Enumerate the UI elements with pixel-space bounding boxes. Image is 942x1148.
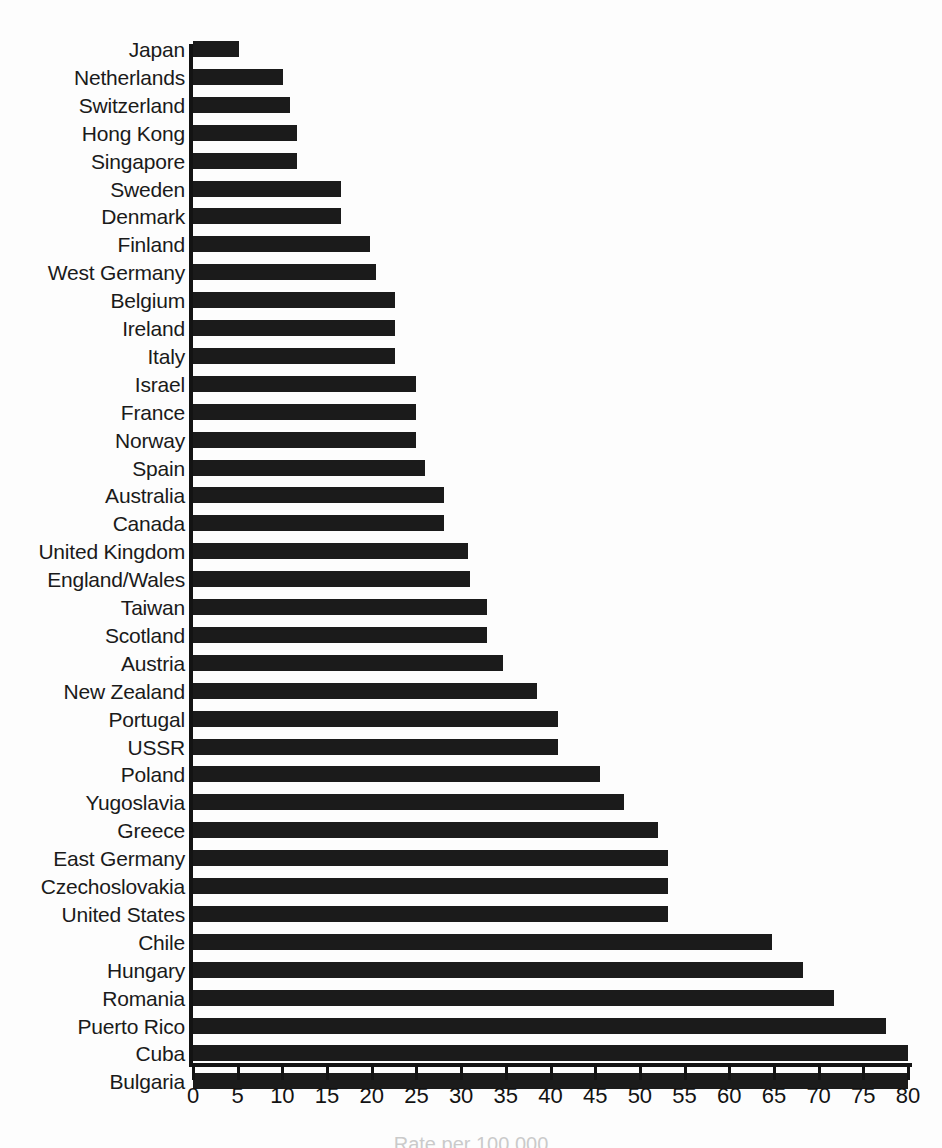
category-label: Romania: [102, 985, 185, 1013]
bar: [193, 739, 558, 755]
x-axis-tick: [684, 1067, 687, 1080]
bar: [193, 348, 395, 364]
bar-row: Denmark: [0, 203, 942, 231]
bar-row: Chile: [0, 929, 942, 957]
bar-row: New Zealand: [0, 678, 942, 706]
category-label: New Zealand: [63, 678, 185, 706]
category-label: Taiwan: [121, 594, 185, 622]
category-label: Italy: [147, 343, 185, 371]
x-axis-tick: [505, 1067, 508, 1080]
category-label: Finland: [118, 231, 185, 259]
bar-row: England/Wales: [0, 566, 942, 594]
bar-row: Norway: [0, 427, 942, 455]
x-axis-tick: [281, 1067, 284, 1080]
bar-row: Japan: [0, 36, 942, 64]
category-label: Switzerland: [79, 92, 185, 120]
x-axis-tick: [192, 1067, 195, 1080]
x-axis-tick: [907, 1067, 910, 1080]
category-label: Chile: [138, 929, 185, 957]
x-axis-tick-label: 80: [878, 1083, 938, 1109]
category-label: Yugoslavia: [85, 789, 185, 817]
bar: [193, 990, 834, 1006]
bar: [193, 627, 487, 643]
bar: [193, 41, 239, 57]
category-label: France: [121, 399, 185, 427]
bar-row: Hong Kong: [0, 120, 942, 148]
bar: [193, 599, 487, 615]
bar: [193, 460, 425, 476]
category-label: Australia: [105, 482, 185, 510]
x-axis-tick: [371, 1067, 374, 1080]
x-axis-tick: [415, 1067, 418, 1080]
bar: [193, 515, 444, 531]
y-axis-spine: [189, 44, 193, 1063]
category-label: Singapore: [91, 148, 185, 176]
bar-row: Austria: [0, 650, 942, 678]
bar: [193, 1045, 908, 1061]
bar-row: Canada: [0, 510, 942, 538]
bar-row: Finland: [0, 231, 942, 259]
x-axis-tick: [550, 1067, 553, 1080]
bar-row: East Germany: [0, 845, 942, 873]
bar-row: Puerto Rico: [0, 1013, 942, 1041]
category-label: Hungary: [107, 957, 185, 985]
bar-row: United States: [0, 901, 942, 929]
bar-row: Scotland: [0, 622, 942, 650]
bar-row: Hungary: [0, 957, 942, 985]
x-axis-tick: [639, 1067, 642, 1080]
bar: [193, 794, 624, 810]
bar-row: Australia: [0, 482, 942, 510]
category-label: Portugal: [108, 706, 185, 734]
bar-row: West Germany: [0, 259, 942, 287]
category-label: Belgium: [111, 287, 185, 315]
category-label: Japan: [129, 36, 185, 64]
bar-row: Greece: [0, 817, 942, 845]
bar-row: France: [0, 399, 942, 427]
category-label: Hong Kong: [82, 120, 185, 148]
plot-area: JapanNetherlandsSwitzerlandHong KongSing…: [0, 0, 942, 1148]
bar: [193, 934, 772, 950]
category-label: Greece: [117, 817, 185, 845]
bar: [193, 97, 290, 113]
bar-row: Singapore: [0, 148, 942, 176]
bar-row: Taiwan: [0, 594, 942, 622]
category-label: Spain: [132, 455, 185, 483]
x-axis-tick: [460, 1067, 463, 1080]
category-label: Norway: [115, 427, 185, 455]
category-label: Ireland: [122, 315, 185, 343]
bar-row: Israel: [0, 371, 942, 399]
category-label: United States: [62, 901, 185, 929]
category-label: Netherlands: [74, 64, 185, 92]
bar-row: Sweden: [0, 176, 942, 204]
category-label: Scotland: [105, 622, 185, 650]
category-label: Canada: [113, 510, 185, 538]
bar: [193, 683, 537, 699]
bar-row: Portugal: [0, 706, 942, 734]
x-axis-title: Rate per 100,000: [0, 1133, 942, 1148]
bar: [193, 962, 803, 978]
bar: [193, 655, 503, 671]
bar-row: Yugoslavia: [0, 789, 942, 817]
category-label: Israel: [135, 371, 185, 399]
bar-row: United Kingdom: [0, 538, 942, 566]
x-axis-tick: [326, 1067, 329, 1080]
x-axis-tick: [594, 1067, 597, 1080]
x-axis-tick: [237, 1067, 240, 1080]
bar: [193, 543, 468, 559]
category-label: Cuba: [136, 1040, 185, 1068]
category-label: Sweden: [110, 176, 185, 204]
bar: [193, 292, 395, 308]
bar: [193, 153, 297, 169]
bar-row: Romania: [0, 985, 942, 1013]
bar-row: Ireland: [0, 315, 942, 343]
category-label: Denmark: [101, 203, 185, 231]
bar: [193, 320, 395, 336]
bar-row: Belgium: [0, 287, 942, 315]
bar: [193, 906, 668, 922]
bar: [193, 432, 416, 448]
bar: [193, 766, 600, 782]
bar: [193, 236, 370, 252]
bar: [193, 208, 341, 224]
bar: [193, 487, 444, 503]
bar: [193, 69, 283, 85]
